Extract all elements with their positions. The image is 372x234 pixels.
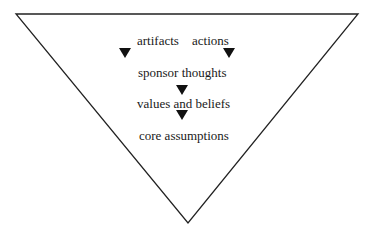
culture-layers-diagram: artifacts actions sponsor thoughts value… <box>0 0 372 234</box>
triangle-outline <box>16 14 358 223</box>
inverted-triangle-shape <box>0 0 372 234</box>
arrow-down-icon <box>176 110 188 120</box>
arrow-down-icon <box>119 48 131 58</box>
label-artifacts: artifacts <box>137 34 179 47</box>
label-actions: actions <box>192 34 229 47</box>
arrow-down-icon <box>176 85 188 95</box>
label-core-assumptions: core assumptions <box>139 129 229 142</box>
arrow-down-icon <box>223 48 235 58</box>
label-sponsor-thoughts: sponsor thoughts <box>138 66 226 79</box>
label-values-beliefs: values and beliefs <box>137 97 230 110</box>
